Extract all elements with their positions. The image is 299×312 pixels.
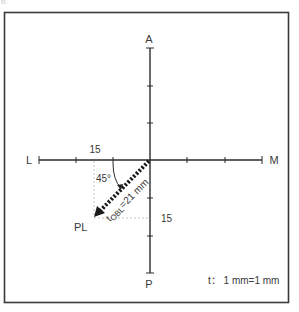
result-direction-label: PL — [74, 221, 87, 233]
angle-label: 45° — [96, 173, 111, 184]
horizontal-component-label: 15 — [89, 144, 101, 155]
angle-arc — [113, 163, 121, 188]
axis-label-medial: M — [269, 154, 278, 166]
vector-diagram: A P L M 15 15 45° tOBL=21 mm PL t： 1 mm=… — [0, 0, 299, 312]
diagram-frame — [5, 13, 289, 303]
axis-label-anterior: A — [145, 33, 153, 45]
scale-label: t： 1 mm=1 mm — [208, 275, 279, 286]
axis-label-posterior: P — [145, 278, 152, 290]
vertical-component-label: 15 — [161, 213, 173, 224]
axis-label-lateral: L — [26, 154, 32, 166]
